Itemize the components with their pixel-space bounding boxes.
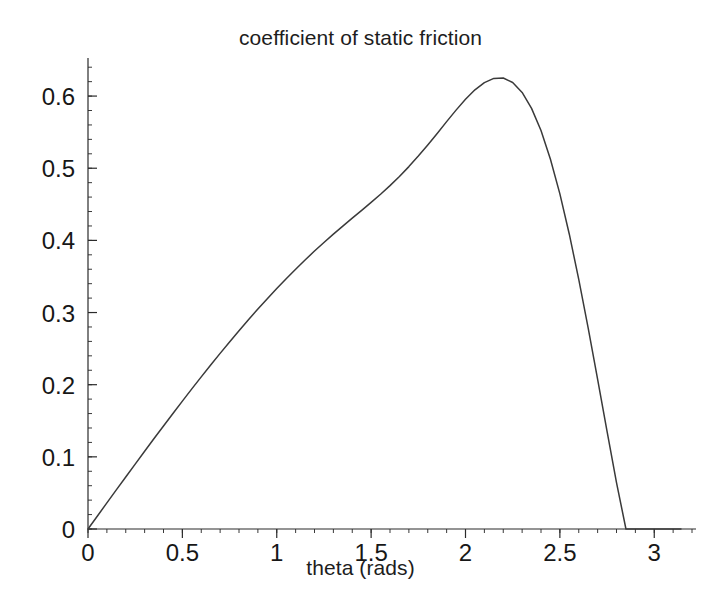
y-tick-label: 0.2 [42,372,75,399]
y-axis-major-ticks [88,96,97,529]
y-tick-label: 0 [62,516,75,543]
chart-figure: coefficient of static friction 00.10.20.… [0,0,721,611]
plot-area: 00.10.20.30.40.50.6 00.511.522.53 [0,0,721,611]
y-tick-label: 0.5 [42,155,75,182]
x-axis-major-ticks [88,529,654,538]
y-tick-label: 0.3 [42,300,75,327]
y-tick-label: 0.6 [42,83,75,110]
y-tick-label: 0.4 [42,227,75,254]
y-tick-label: 0.1 [42,444,75,471]
data-series-curve [88,78,681,529]
y-axis-tick-labels: 00.10.20.30.40.50.6 [42,83,75,543]
x-axis-title: theta (rads) [0,556,721,580]
